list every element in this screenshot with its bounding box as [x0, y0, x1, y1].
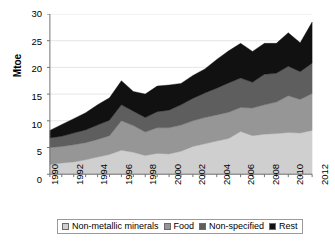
legend-item-0[interactable]: Non-metallic minerals — [62, 222, 159, 231]
y-tick-label: 20 — [18, 64, 42, 73]
y-tick-label: 15 — [18, 92, 42, 101]
legend-swatch-icon — [62, 223, 69, 230]
chart-legend: Non-metallic mineralsFoodNon-specifiedRe… — [57, 219, 303, 234]
y-tick-label: 25 — [18, 37, 42, 46]
x-tick-label: 2004 — [222, 164, 231, 185]
x-tick-label: 2006 — [246, 164, 255, 185]
x-tick-label: 1992 — [75, 164, 84, 185]
x-tick-label: 1998 — [148, 164, 157, 185]
y-tick-label: 10 — [18, 120, 42, 129]
x-tick-label: 1990 — [50, 164, 59, 185]
x-tick-label: 1996 — [124, 164, 133, 185]
x-tick-label: 2002 — [197, 164, 206, 185]
legend-label: Non-metallic minerals — [72, 222, 159, 231]
y-tick-label: 5 — [18, 147, 42, 156]
legend-label: Food — [174, 222, 195, 231]
stacked-area-chart: Mtoe 051015202530 1990199219941996199820… — [0, 0, 335, 245]
legend-swatch-icon — [269, 223, 276, 230]
x-tick-label: 2000 — [173, 164, 182, 185]
legend-item-2[interactable]: Non-specified — [199, 222, 264, 231]
legend-label: Rest — [279, 222, 298, 231]
legend-item-3[interactable]: Rest — [269, 222, 298, 231]
plot-area — [46, 14, 316, 180]
y-tick-label: 30 — [18, 9, 42, 18]
plot-svg — [46, 14, 316, 180]
x-tick-label: 2008 — [271, 164, 280, 185]
legend-label: Non-specified — [209, 222, 264, 231]
legend-item-1[interactable]: Food — [164, 222, 195, 231]
legend-swatch-icon — [164, 223, 171, 230]
y-axis-tick-labels: 051015202530 — [14, 0, 42, 194]
x-tick-label: 1994 — [99, 164, 108, 185]
x-tick-label: 2010 — [295, 164, 304, 185]
y-tick-label: 0 — [18, 175, 42, 184]
x-tick-label: 2012 — [320, 164, 329, 185]
legend-swatch-icon — [199, 223, 206, 230]
